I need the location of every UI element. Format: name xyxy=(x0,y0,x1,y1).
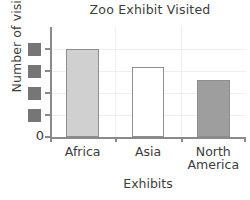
chart-title: Zoo Exhibit Visited xyxy=(55,2,245,17)
x-axis-tick xyxy=(244,137,246,142)
y-axis-tick xyxy=(45,48,51,50)
gridline-vertical xyxy=(181,27,182,137)
y-axis-tick xyxy=(45,114,51,116)
plot-area xyxy=(50,27,246,138)
x-axis-tick xyxy=(181,137,183,142)
bar-africa xyxy=(66,49,99,137)
bar-north-america xyxy=(197,80,230,137)
y-axis-tick-label-redacted xyxy=(28,65,41,78)
y-axis-label: Number of visitors xyxy=(5,0,27,93)
y-axis-tick-label-redacted xyxy=(28,109,41,122)
gridline-vertical xyxy=(115,27,116,137)
chart-screenshot: Zoo Exhibit Visited Number of visitors 0… xyxy=(0,0,250,200)
x-axis-label: Exhibits xyxy=(50,176,246,191)
bar-asia xyxy=(132,67,165,137)
y-axis-line xyxy=(50,27,52,138)
y-axis-tick-label-redacted xyxy=(28,43,41,56)
x-axis-line xyxy=(50,137,246,139)
y-axis-tick-label-redacted xyxy=(28,87,41,100)
y-axis-tick xyxy=(45,92,51,94)
x-axis-tick xyxy=(115,137,117,142)
y-axis-tick-label-zero: 0 xyxy=(28,129,44,142)
x-axis-tick-label-north-america: North America xyxy=(171,145,250,171)
y-axis-label-text: Number of visitors xyxy=(9,0,24,93)
y-axis-tick xyxy=(45,70,51,72)
x-axis-tick xyxy=(50,137,52,142)
